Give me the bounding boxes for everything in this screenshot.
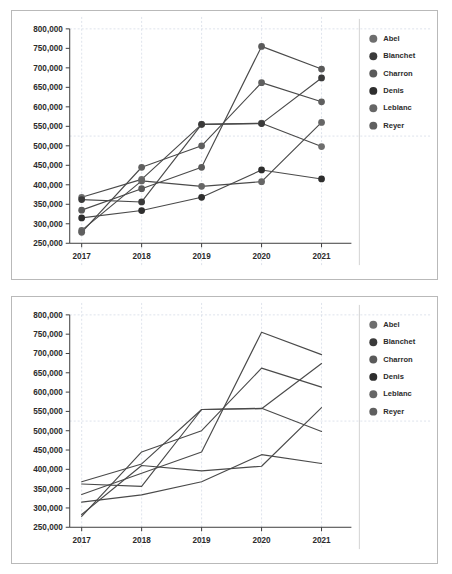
data-point-denis-2020[interactable] <box>258 167 265 174</box>
data-point-charron-2020[interactable] <box>258 43 265 50</box>
legend-item-reyer[interactable]: Reyer <box>369 121 404 130</box>
y-tick-label: 750,000 <box>33 330 63 339</box>
data-point-leblanc-2021[interactable] <box>318 119 325 126</box>
legend-swatch-denis <box>369 87 377 95</box>
legend-swatch-charron <box>369 356 377 364</box>
y-tick-label: 300,000 <box>33 220 63 229</box>
data-point-charron-2019[interactable] <box>198 164 205 171</box>
legend-label-leblanc: Leblanc <box>383 103 412 112</box>
legend-swatch-abel <box>369 321 377 329</box>
line-chart-no-markers-panel[interactable]: 250,000300,000350,000400,000450,000500,0… <box>11 296 438 564</box>
y-tick-label: 250,000 <box>33 523 63 532</box>
y-tick-label: 650,000 <box>33 83 63 92</box>
legend-label-blanchet: Blanchet <box>383 337 415 346</box>
x-tick-label: 2021 <box>312 536 331 545</box>
y-tick-label: 400,000 <box>33 465 63 474</box>
legend-item-abel[interactable]: Abel <box>369 34 399 43</box>
y-tick-label: 550,000 <box>33 407 63 416</box>
y-tick-label: 500,000 <box>33 142 63 151</box>
legend-label-abel: Abel <box>383 34 399 43</box>
y-tick-label: 550,000 <box>33 122 63 131</box>
legend-label-reyer: Reyer <box>383 407 404 416</box>
data-point-denis-2019[interactable] <box>198 194 205 201</box>
legend-swatch-abel <box>369 35 377 43</box>
legend-item-blanchet[interactable]: Blanchet <box>369 51 415 60</box>
y-tick-label: 600,000 <box>33 388 63 397</box>
series-line-blanchet[interactable] <box>82 364 322 487</box>
legend-item-leblanc[interactable]: Leblanc <box>369 389 412 398</box>
data-point-blanchet-2018[interactable] <box>138 199 145 206</box>
data-point-leblanc-2018[interactable] <box>138 178 145 185</box>
y-tick-label: 700,000 <box>33 349 63 358</box>
legend-label-leblanc: Leblanc <box>383 389 412 398</box>
data-point-leblanc-2020[interactable] <box>258 178 265 185</box>
y-tick-label: 700,000 <box>33 64 63 73</box>
data-point-denis-2017[interactable] <box>78 215 85 222</box>
x-tick-label: 2019 <box>193 536 212 545</box>
data-point-leblanc-2019[interactable] <box>198 183 205 190</box>
y-tick-label: 450,000 <box>33 446 63 455</box>
legend-swatch-blanchet <box>369 338 377 346</box>
y-tick-label: 750,000 <box>33 44 63 53</box>
data-point-denis-2021[interactable] <box>318 176 325 183</box>
legend-item-blanchet[interactable]: Blanchet <box>369 337 415 346</box>
data-point-reyer-2020[interactable] <box>258 79 265 86</box>
y-tick-label: 800,000 <box>33 25 63 34</box>
x-tick-label: 2017 <box>73 252 92 261</box>
data-point-blanchet-2020[interactable] <box>258 120 265 127</box>
legend-label-charron: Charron <box>383 69 413 78</box>
data-point-charron-2021[interactable] <box>318 66 325 73</box>
legend-swatch-charron <box>369 70 377 78</box>
y-tick-label: 800,000 <box>33 311 63 320</box>
y-tick-label: 300,000 <box>33 504 63 513</box>
x-tick-label: 2020 <box>253 536 272 545</box>
legend-label-charron: Charron <box>383 355 413 364</box>
legend-item-abel[interactable]: Abel <box>369 320 399 329</box>
legend-label-abel: Abel <box>383 320 399 329</box>
y-tick-label: 250,000 <box>33 239 63 248</box>
legend-swatch-reyer <box>369 408 377 416</box>
legend-item-denis[interactable]: Denis <box>369 86 404 95</box>
legend-label-reyer: Reyer <box>383 121 404 130</box>
legend-item-charron[interactable]: Charron <box>369 69 413 78</box>
y-tick-label: 400,000 <box>33 181 63 190</box>
data-point-reyer-2019[interactable] <box>198 142 205 149</box>
line-chart-with-markers[interactable]: 250,000300,000350,000400,000450,000500,0… <box>12 11 437 279</box>
y-tick-label: 650,000 <box>33 369 63 378</box>
data-point-abel-2021[interactable] <box>318 143 325 150</box>
data-point-reyer-2018[interactable] <box>138 164 145 171</box>
legend-item-denis[interactable]: Denis <box>369 372 404 381</box>
legend-item-leblanc[interactable]: Leblanc <box>369 103 412 112</box>
chart-page: 250,000300,000350,000400,000450,000500,0… <box>0 0 452 574</box>
data-point-charron-2017[interactable] <box>78 207 85 214</box>
data-point-reyer-2021[interactable] <box>318 98 325 105</box>
legend-item-reyer[interactable]: Reyer <box>369 407 404 416</box>
y-tick-label: 600,000 <box>33 103 63 112</box>
x-tick-label: 2018 <box>133 536 152 545</box>
x-tick-label: 2019 <box>193 252 212 261</box>
x-tick-label: 2018 <box>133 252 152 261</box>
x-tick-label: 2021 <box>312 252 331 261</box>
legend-swatch-leblanc <box>369 104 377 112</box>
legend-swatch-reyer <box>369 122 377 130</box>
y-tick-label: 350,000 <box>33 200 63 209</box>
data-point-blanchet-2021[interactable] <box>318 75 325 82</box>
line-chart-no-markers[interactable]: 250,000300,000350,000400,000450,000500,0… <box>12 297 437 563</box>
y-tick-label: 500,000 <box>33 427 63 436</box>
data-point-denis-2018[interactable] <box>138 207 145 214</box>
y-tick-label: 350,000 <box>33 485 63 494</box>
line-chart-with-markers-panel[interactable]: 250,000300,000350,000400,000450,000500,0… <box>11 10 438 280</box>
y-tick-label: 450,000 <box>33 161 63 170</box>
data-point-charron-2018[interactable] <box>138 185 145 192</box>
legend-swatch-blanchet <box>369 52 377 60</box>
legend-label-denis: Denis <box>383 86 404 95</box>
data-point-reyer-2017[interactable] <box>78 229 85 236</box>
legend-swatch-denis <box>369 373 377 381</box>
legend-swatch-leblanc <box>369 390 377 398</box>
legend-label-denis: Denis <box>383 372 404 381</box>
legend-item-charron[interactable]: Charron <box>369 355 413 364</box>
data-point-blanchet-2017[interactable] <box>78 196 85 203</box>
x-tick-label: 2020 <box>253 252 272 261</box>
legend-label-blanchet: Blanchet <box>383 51 415 60</box>
data-point-blanchet-2019[interactable] <box>198 121 205 128</box>
